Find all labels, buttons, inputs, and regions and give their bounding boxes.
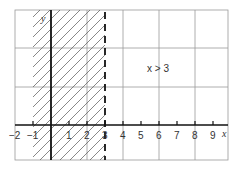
svg-text:5: 5 xyxy=(138,130,144,141)
inequality-graph: y x x > 3 −2 −1 1 2 3 4 5 6 7 8 9 xyxy=(0,0,243,170)
svg-text:4: 4 xyxy=(120,130,126,141)
x-tick-labels: −2 −1 1 2 3 4 5 6 7 8 9 xyxy=(9,130,216,141)
svg-text:−2: −2 xyxy=(9,130,21,141)
inequality-label: x > 3 xyxy=(147,63,169,74)
svg-text:9: 9 xyxy=(210,130,216,141)
svg-text:7: 7 xyxy=(174,130,180,141)
x-axis-label: x xyxy=(221,128,227,139)
y-axis-label: y xyxy=(40,13,46,24)
svg-text:3: 3 xyxy=(102,130,108,141)
svg-text:8: 8 xyxy=(192,130,198,141)
svg-text:−1: −1 xyxy=(27,130,39,141)
svg-text:1: 1 xyxy=(66,130,72,141)
svg-text:6: 6 xyxy=(156,130,162,141)
svg-text:2: 2 xyxy=(84,130,90,141)
hatched-region xyxy=(0,10,243,170)
